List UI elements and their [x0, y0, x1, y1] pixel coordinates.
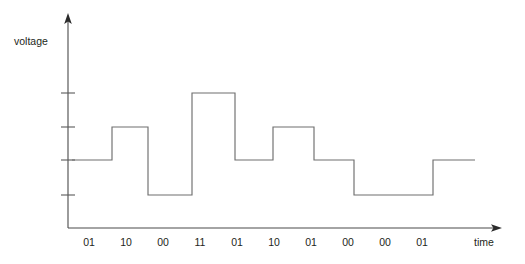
waveform-plot-svg: voltage time 01 10 00 11 01 10 01 00 00 …	[0, 0, 525, 264]
x-tick-label-9: 01	[416, 236, 428, 248]
waveform-figure: voltage time 01 10 00 11 01 10 01 00 00 …	[0, 0, 525, 264]
x-tick-label-4: 01	[231, 236, 243, 248]
voltage-step-waveform	[72, 93, 475, 195]
x-axis-title: time	[474, 236, 494, 248]
x-tick-label-5: 10	[268, 236, 280, 248]
x-tick-label-3: 11	[195, 236, 206, 248]
x-tick-label-1: 10	[120, 236, 132, 248]
x-tick-label-7: 00	[342, 236, 354, 248]
x-tick-label-0: 01	[83, 236, 95, 248]
x-tick-label-8: 00	[379, 236, 391, 248]
x-tick-label-6: 01	[305, 236, 317, 248]
y-axis-title: voltage	[14, 35, 48, 47]
x-tick-label-2: 00	[157, 236, 169, 248]
